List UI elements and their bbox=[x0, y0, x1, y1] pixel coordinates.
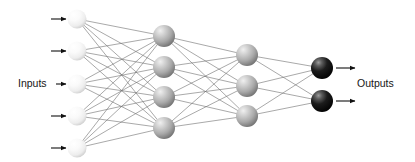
hidden-node-1 bbox=[236, 44, 258, 66]
connection-line bbox=[256, 88, 312, 99]
connection-line bbox=[83, 42, 157, 110]
connection-line bbox=[85, 21, 155, 35]
output-node-1 bbox=[311, 57, 333, 79]
hidden-layer-2-nodes bbox=[236, 44, 258, 127]
output-node-2 bbox=[311, 90, 333, 112]
connection-edges bbox=[82, 21, 314, 147]
input-layer-nodes bbox=[68, 10, 87, 158]
edges-hidden2-to-output bbox=[255, 57, 314, 115]
input-node-4 bbox=[68, 107, 87, 126]
hidden-layer-1-nodes bbox=[153, 25, 175, 139]
connection-line bbox=[85, 69, 155, 83]
connection-line bbox=[256, 57, 312, 67]
connection-line bbox=[173, 117, 237, 126]
connection-line bbox=[84, 23, 156, 63]
connection-line bbox=[171, 61, 240, 121]
input-node-5 bbox=[68, 139, 87, 158]
connection-line bbox=[256, 70, 313, 84]
connection-line bbox=[85, 99, 155, 114]
connection-line bbox=[255, 73, 314, 111]
input-node-3 bbox=[68, 75, 87, 94]
hidden-node-3 bbox=[236, 105, 258, 127]
input-node-1 bbox=[68, 10, 87, 29]
connection-line bbox=[82, 25, 158, 120]
neural-network-canvas: Inputs Outputs bbox=[0, 0, 415, 162]
inputs-label: Inputs bbox=[18, 77, 47, 89]
hidden-node-3 bbox=[153, 86, 175, 108]
hidden-node-2 bbox=[153, 56, 175, 78]
connection-line bbox=[255, 60, 314, 96]
hidden-node-2 bbox=[236, 75, 258, 97]
connection-line bbox=[173, 56, 237, 65]
connection-line bbox=[85, 117, 155, 127]
connection-line bbox=[85, 38, 155, 50]
input-arrows bbox=[51, 19, 66, 148]
output-layer-nodes bbox=[311, 57, 333, 112]
hidden-node-1 bbox=[153, 25, 175, 47]
connection-line bbox=[173, 38, 237, 53]
outputs-label: Outputs bbox=[357, 77, 394, 89]
connection-line bbox=[83, 56, 157, 121]
connection-line bbox=[85, 130, 155, 146]
neural-network-diagram: Inputs Outputs bbox=[0, 0, 415, 162]
edges-hidden1-to-hidden2 bbox=[171, 38, 240, 127]
hidden-node-4 bbox=[153, 117, 175, 139]
output-arrows bbox=[336, 68, 355, 101]
input-node-2 bbox=[68, 42, 87, 61]
edges-input-to-hidden1 bbox=[82, 21, 158, 147]
connection-line bbox=[84, 72, 156, 112]
